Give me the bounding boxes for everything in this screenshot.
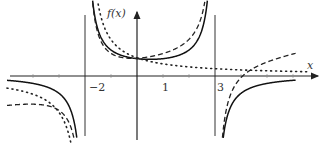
tick-label: 1 <box>162 81 169 94</box>
x-axis-label: x <box>307 59 314 72</box>
dashed-curve <box>7 104 74 138</box>
solid-curve <box>223 80 295 138</box>
y-axis-label: f(x) <box>106 7 126 20</box>
function-plot: −2 1 3 x f(x) <box>0 0 324 154</box>
dotted-curve <box>98 4 308 72</box>
dashed-curve <box>222 53 295 137</box>
tick-label: −2 <box>89 81 105 94</box>
dotted-curve <box>7 88 71 142</box>
solid-curve <box>7 80 77 137</box>
tick-label: 3 <box>217 81 224 94</box>
